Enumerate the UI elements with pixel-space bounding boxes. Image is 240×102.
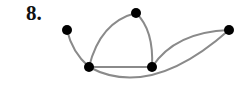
- vertex-E: [147, 62, 157, 72]
- edge-E-C: [152, 30, 229, 67]
- vertex-D: [84, 62, 94, 72]
- vertex-A: [62, 25, 72, 35]
- edge-A-D: [67, 30, 89, 67]
- edge-D-C: [89, 30, 229, 78]
- vertex-B: [131, 8, 141, 18]
- edge-D-B: [89, 13, 136, 67]
- edge-B-E: [136, 13, 152, 67]
- vertex-C: [224, 25, 234, 35]
- graph-diagram: [0, 0, 240, 102]
- graph-nodes: [62, 8, 234, 72]
